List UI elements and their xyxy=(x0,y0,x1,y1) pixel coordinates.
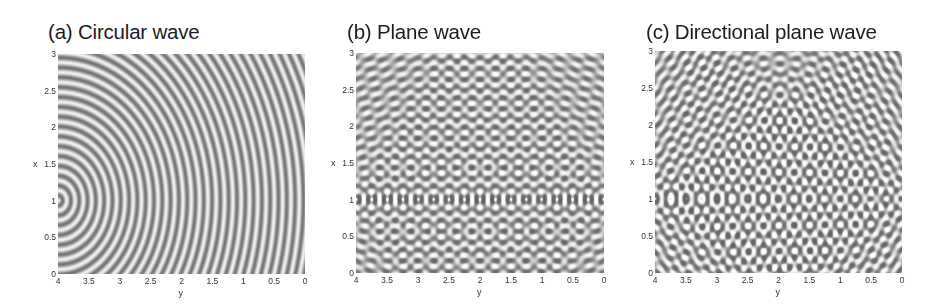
y-tick-label: 1 xyxy=(34,197,56,206)
x-tick-label: 2 xyxy=(172,277,192,286)
panel-directional-plane-wave: (c) Directional plane wave xyxy=(0,0,941,306)
x-tick-label: 1 xyxy=(830,276,850,285)
x-tick-label: 2 xyxy=(470,276,490,285)
y-tick-label: 1 xyxy=(631,195,653,204)
wave-field-image xyxy=(655,51,902,273)
y-tick-label: 3 xyxy=(34,50,56,59)
x-tick-label: 2.5 xyxy=(439,276,459,285)
x-tick-label: 3.5 xyxy=(676,276,696,285)
x-tick-label: 0 xyxy=(594,276,614,285)
y-tick-label: 1 xyxy=(332,196,354,205)
x-tick-label: 3.5 xyxy=(377,276,397,285)
x-tick-label: 1.5 xyxy=(202,277,222,286)
y-tick-label: 3 xyxy=(332,49,354,58)
x-tick-label: 1.5 xyxy=(501,276,521,285)
y-axis-label: x xyxy=(33,160,38,169)
x-tick-label: 2.5 xyxy=(141,277,161,286)
panel-title: (c) Directional plane wave xyxy=(646,20,877,44)
y-axis-label: x xyxy=(630,158,635,167)
x-tick-label: 1 xyxy=(233,277,253,286)
x-tick-label: 3 xyxy=(707,276,727,285)
y-tick-label: 2.5 xyxy=(631,84,653,93)
y-tick-label: 0 xyxy=(631,269,653,278)
x-tick-label: 1.5 xyxy=(799,276,819,285)
y-tick-label: 2 xyxy=(332,122,354,131)
x-tick-label: 3 xyxy=(408,276,428,285)
x-tick-label: 2 xyxy=(769,276,789,285)
x-tick-label: 1 xyxy=(532,276,552,285)
y-axis-label: x xyxy=(331,159,336,168)
y-tick-label: 0.5 xyxy=(34,233,56,242)
y-tick-label: 0.5 xyxy=(332,232,354,241)
y-tick-label: 0 xyxy=(34,270,56,279)
y-tick-label: 2.5 xyxy=(34,87,56,96)
y-tick-label: 2.5 xyxy=(332,86,354,95)
y-tick-label: 3 xyxy=(631,47,653,56)
x-tick-label: 0.5 xyxy=(563,276,583,285)
x-tick-label: 0 xyxy=(892,276,912,285)
wave-field-plot xyxy=(655,51,902,273)
x-tick-label: 3 xyxy=(110,277,130,286)
y-tick-label: 0.5 xyxy=(631,232,653,241)
x-axis-label: y xyxy=(776,288,781,297)
x-tick-label: 3.5 xyxy=(79,277,99,286)
y-tick-label: 2 xyxy=(631,121,653,130)
x-axis-label: y xyxy=(179,289,184,298)
x-axis-label: y xyxy=(477,288,482,297)
y-tick-label: 0 xyxy=(332,269,354,278)
y-tick-label: 2 xyxy=(34,123,56,132)
x-tick-label: 0 xyxy=(295,277,315,286)
x-tick-label: 0.5 xyxy=(861,276,881,285)
x-tick-label: 2.5 xyxy=(738,276,758,285)
x-tick-label: 0.5 xyxy=(264,277,284,286)
